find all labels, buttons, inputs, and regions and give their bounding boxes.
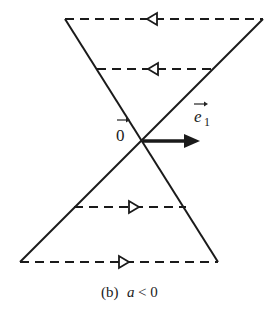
svg-text:(b): (b) xyxy=(101,284,119,301)
flow-arrow-right-icon xyxy=(129,201,139,213)
vector-label: e 1 xyxy=(194,102,210,130)
figure-caption: (b) a < 0 xyxy=(101,284,158,301)
svg-text:< 0: < 0 xyxy=(138,284,158,300)
origin-label: 0 xyxy=(116,118,130,146)
flow-arrow-left-icon xyxy=(147,13,157,25)
svg-text:a: a xyxy=(127,284,135,300)
svg-text:e: e xyxy=(194,107,202,126)
flow-arrow-left-icon xyxy=(148,63,158,75)
cone-diagram: 0 e 1 (b) a < 0 xyxy=(0,0,278,311)
cone-edge-right-top-to-left-bottom xyxy=(20,19,263,262)
flow-arrow-right-icon xyxy=(119,256,129,268)
svg-text:0: 0 xyxy=(116,126,125,145)
vector-e1-arrowhead-icon xyxy=(184,134,200,148)
svg-text:1: 1 xyxy=(204,115,210,129)
